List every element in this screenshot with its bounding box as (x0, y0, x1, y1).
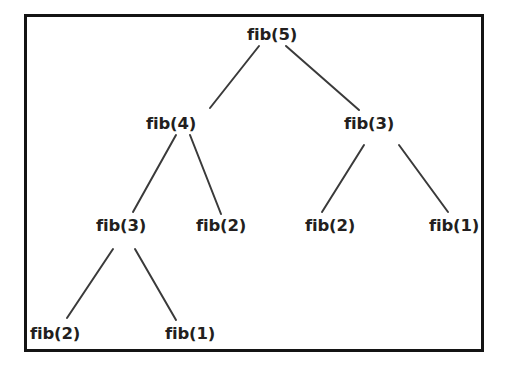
tree-node-n6: fib(1) (429, 218, 479, 235)
tree-node-n7: fib(2) (30, 326, 80, 343)
tree-node-n1: fib(4) (146, 116, 196, 133)
tree-node-n8: fib(1) (165, 326, 215, 343)
recursion-tree-figure: fib(5)fib(4)fib(3)fib(3)fib(2)fib(2)fib(… (0, 0, 506, 376)
diagram-frame-border (24, 14, 484, 352)
tree-node-n4: fib(2) (196, 218, 246, 235)
tree-node-n5: fib(2) (305, 218, 355, 235)
tree-node-n2: fib(3) (344, 116, 394, 133)
tree-node-n0: fib(5) (247, 27, 297, 44)
tree-node-n3: fib(3) (96, 218, 146, 235)
